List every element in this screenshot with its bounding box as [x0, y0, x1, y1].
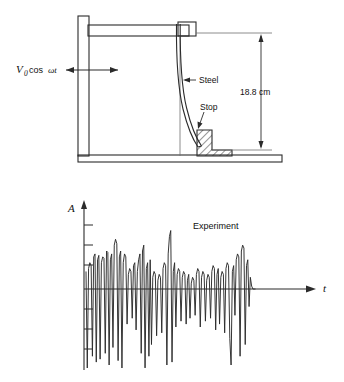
steel-callout: Steel	[183, 75, 218, 85]
dimension-label: 18.8 cm	[240, 87, 270, 97]
x-axis-label: t	[323, 282, 327, 294]
stop-callout: Stop	[198, 102, 218, 129]
base-bar	[78, 155, 282, 162]
waveform-plot: A t Experiment	[67, 200, 327, 370]
drive-label-cos: cos	[29, 65, 44, 75]
figure-root: V 0 cos ωt Steel Stop	[0, 0, 344, 382]
experiment-trace	[86, 231, 255, 368]
drive-label-v: V	[16, 63, 24, 75]
drive-label: V 0 cos ωt	[16, 63, 57, 78]
base-body	[78, 155, 282, 162]
y-axis-arrowhead	[81, 200, 87, 209]
drive-arrow-head-left	[66, 67, 74, 73]
x-axis-arrowhead	[306, 286, 316, 293]
stop-block	[197, 130, 232, 156]
drive-arrow	[66, 67, 118, 73]
stop-block-body	[197, 130, 232, 156]
y-axis-label: A	[67, 202, 75, 214]
steel-label: Steel	[199, 75, 218, 85]
stop-label: Stop	[200, 102, 218, 112]
figure-svg: V 0 cos ωt Steel Stop	[0, 0, 344, 382]
stop-leader-arrow	[198, 122, 203, 130]
beam-body	[88, 25, 189, 36]
steel-leader-arrow	[183, 78, 190, 83]
drive-label-subscript: 0	[24, 69, 28, 78]
dimension-arrow-head-top	[259, 34, 264, 42]
apparatus-diagram: V 0 cos ωt Steel Stop	[16, 16, 282, 162]
vertical-post	[78, 16, 89, 156]
drive-arrow-head-right	[110, 67, 118, 73]
experiment-annotation: Experiment	[193, 221, 239, 231]
dimension-arrow-head-bottom	[259, 141, 264, 149]
drive-label-omega-t: ωt	[48, 65, 57, 75]
post-body	[78, 16, 89, 156]
